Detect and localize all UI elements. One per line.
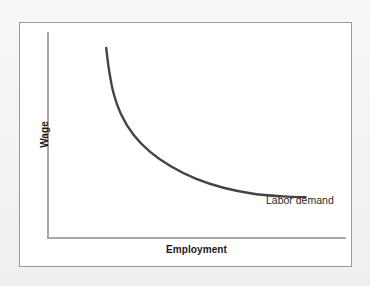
labor-demand-path [106,48,305,197]
labor-demand-label: Labor demand [266,194,334,206]
labor-demand-curve [20,23,353,268]
figure-panel: Wage Employment Labor demand [19,22,352,267]
